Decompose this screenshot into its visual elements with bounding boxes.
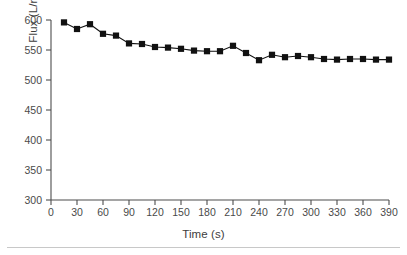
data-point — [386, 57, 392, 63]
data-point — [243, 50, 249, 56]
data-point — [308, 54, 314, 60]
data-point — [204, 48, 210, 54]
data-point — [295, 53, 301, 59]
data-point — [191, 48, 197, 54]
data-point — [61, 19, 67, 25]
data-point — [113, 33, 119, 39]
footer-divider — [7, 247, 400, 248]
data-point — [282, 54, 288, 60]
data-point — [126, 40, 132, 46]
data-point — [256, 57, 262, 63]
data-point — [217, 48, 223, 54]
data-point — [178, 46, 184, 52]
axis-lines — [51, 20, 389, 200]
data-point — [74, 26, 80, 32]
data-point — [334, 57, 340, 63]
x-axis-ticks — [51, 200, 389, 205]
series-line-flux — [64, 22, 389, 60]
data-point — [139, 41, 145, 47]
data-point — [152, 44, 158, 50]
plot-canvas — [0, 0, 407, 255]
data-point — [321, 56, 327, 62]
data-point — [87, 21, 93, 27]
data-point — [230, 43, 236, 49]
chart-figure: Flux (L/m2·h) Time (s) 600 550 500 450 4… — [0, 0, 407, 255]
data-point — [269, 52, 275, 58]
data-point — [360, 56, 366, 62]
y-axis-ticks — [46, 20, 51, 200]
data-point — [165, 45, 171, 51]
data-point — [347, 56, 353, 62]
data-point — [373, 57, 379, 63]
data-point — [100, 31, 106, 37]
series-markers-flux — [61, 19, 392, 63]
